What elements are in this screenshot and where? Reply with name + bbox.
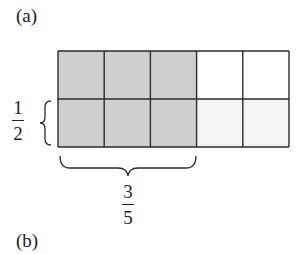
fraction-bar xyxy=(122,204,134,205)
fraction-numerator: 1 xyxy=(13,98,23,117)
bottom-brace-icon xyxy=(60,156,196,176)
unshaded-cell xyxy=(243,51,289,99)
shaded-cell xyxy=(150,51,196,99)
fraction-denominator: 5 xyxy=(123,208,133,227)
fraction-three-fifths: 3 5 xyxy=(122,182,134,227)
left-brace-icon xyxy=(40,101,51,145)
shaded-cell xyxy=(58,51,104,99)
fraction-denominator: 2 xyxy=(13,124,23,143)
unshaded-cell xyxy=(197,99,243,147)
shaded-cell xyxy=(104,51,150,99)
fraction-numerator: 3 xyxy=(123,182,133,201)
unshaded-cell xyxy=(197,51,243,99)
part-b-label: (b) xyxy=(16,231,38,250)
fraction-area-model xyxy=(0,0,302,254)
fraction-one-half: 1 2 xyxy=(12,98,24,143)
shaded-cell xyxy=(58,99,104,147)
fraction-bar xyxy=(12,120,24,121)
unshaded-cell xyxy=(243,99,289,147)
shaded-cell xyxy=(150,99,196,147)
shaded-cell xyxy=(104,99,150,147)
